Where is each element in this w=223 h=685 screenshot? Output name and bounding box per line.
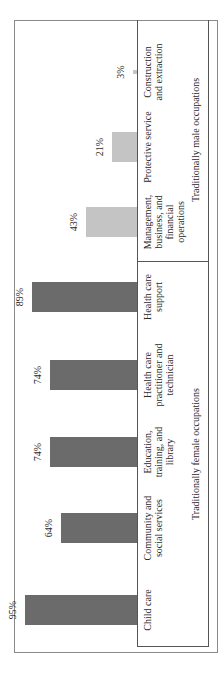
bar [50, 437, 137, 467]
category-label: Health caresupport [142, 260, 164, 334]
value-label: 95% [7, 590, 18, 630]
value-label: 74% [32, 432, 43, 472]
category-label: Child care [142, 573, 153, 647]
group-label-female: Traditionally female occupations [190, 262, 201, 646]
value-label: 64% [43, 508, 54, 548]
bar [112, 132, 137, 162]
value-label: 21% [94, 127, 105, 167]
bar [25, 595, 137, 625]
value-label: 74% [32, 355, 43, 395]
group-label-male: Traditionally male occupations [190, 19, 201, 261]
category-label: Health carepractitioner andtechnician [142, 338, 175, 412]
bar [50, 360, 137, 390]
bar [32, 282, 137, 312]
bar [86, 207, 137, 237]
category-label: Constructionand extraction [142, 35, 164, 109]
category-label: Protective service [142, 110, 153, 184]
value-label: 89% [14, 277, 25, 317]
chart-stage: 95%64%74%74%89%43%21%3% Child careCommun… [0, 0, 223, 685]
category-table: Child careCommunity andsocial servicesEd… [137, 20, 209, 647]
value-label: 43% [68, 202, 79, 242]
category-label: Education,training, andlibrary [142, 415, 175, 489]
bar [61, 513, 137, 543]
category-label: Management,business, andfinancialoperati… [142, 185, 186, 259]
value-label: 3% [115, 52, 126, 92]
category-label: Community andsocial services [142, 491, 164, 565]
